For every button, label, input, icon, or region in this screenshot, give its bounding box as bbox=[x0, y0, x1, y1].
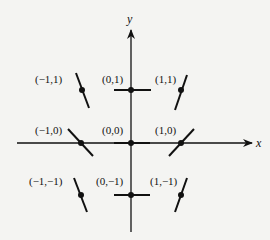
lattice-point bbox=[178, 140, 184, 146]
lattice-point bbox=[128, 192, 134, 198]
lattice-point bbox=[178, 192, 184, 198]
lattice-point bbox=[79, 87, 85, 93]
point-label: (0,−1) bbox=[96, 175, 123, 187]
point-label: (1,−1) bbox=[150, 175, 177, 187]
point-label: (0,1) bbox=[102, 73, 123, 85]
lattice-point bbox=[128, 87, 134, 93]
lattice-point bbox=[178, 87, 184, 93]
point-label: (−1,−1) bbox=[29, 175, 62, 187]
point-label: (1,0) bbox=[155, 124, 176, 136]
y-axis-label: y bbox=[127, 12, 132, 27]
slope-field-diagram: y x (−1,1) (0,1) (1,1) (−1,0) (0,0) (1,0… bbox=[0, 0, 270, 240]
point-label: (1,1) bbox=[155, 73, 176, 85]
x-axis-label: x bbox=[256, 136, 261, 151]
point-label: (−1,0) bbox=[35, 124, 62, 136]
lattice-point bbox=[78, 192, 84, 198]
point-label: (−1,1) bbox=[35, 73, 62, 85]
diagram-canvas bbox=[0, 0, 270, 240]
lattice-point bbox=[78, 140, 84, 146]
lattice-point bbox=[128, 140, 134, 146]
point-label: (0,0) bbox=[102, 124, 123, 136]
